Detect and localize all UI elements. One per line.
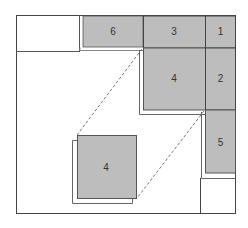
block-5-label: 5	[218, 137, 224, 148]
block-4-moved: 4	[73, 136, 137, 204]
block-4-moved-label: 4	[103, 162, 109, 173]
block-1-label: 1	[218, 26, 224, 37]
block-3-label: 3	[171, 26, 177, 37]
allocation-diagram: 6 3 1 4 2 5 4	[0, 0, 248, 228]
block-4-top-label: 4	[171, 73, 177, 84]
block-1: 1	[206, 16, 236, 48]
block-6: 6	[80, 16, 143, 51]
block-2: 2	[206, 48, 236, 110]
block-2-label: 2	[218, 73, 224, 84]
block-6-label: 6	[110, 26, 116, 37]
block-4-top: 4	[140, 48, 206, 115]
block-3: 3	[144, 16, 206, 48]
block-5: 5	[202, 110, 237, 179]
